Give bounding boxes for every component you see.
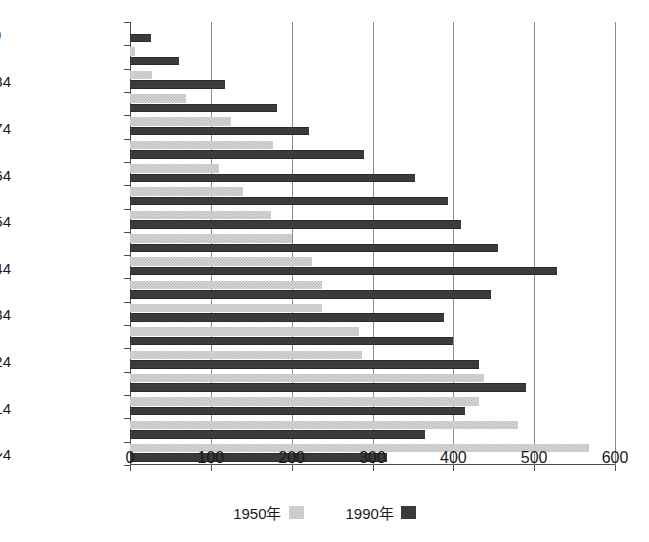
bar-1950-65〜69 [130,141,273,150]
y-axis-label-20〜24: 20〜24 [0,350,11,371]
x-tick-label-400: 400 [440,449,467,467]
bar-1950-10〜14 [130,397,479,406]
y-axis-label-70〜74: 70〜74 [0,116,11,137]
bar-1950-25〜29 [130,327,359,336]
y-tick-top [124,22,130,23]
bar-1950-35〜39 [130,281,322,290]
bar-1990-35〜39 [130,290,491,299]
bar-1950-15〜19 [130,374,484,383]
y-tick-20〜24 [124,372,130,373]
bar-1990-60〜64 [130,174,415,183]
bar-1950-45〜49 [130,234,292,243]
y-tick-65〜69 [124,162,130,163]
bar-1990-15〜19 [130,383,526,392]
y-tick-80〜84 [124,92,130,93]
y-axis-label-40〜44: 40〜44 [0,256,11,277]
y-tick-40〜44 [124,278,130,279]
y-tick-55〜59 [124,209,130,210]
y-tick-60〜64 [124,185,130,186]
x-tick-label-500: 500 [521,449,548,467]
y-tick-85〜89 [124,69,130,70]
bar-1950-85〜89 [130,47,135,56]
bar-1990-75〜79 [130,104,277,113]
bar-1990-45〜49 [130,244,498,253]
legend-item-1990年[interactable]: 1990年 [346,502,416,523]
bar-1990-80〜84 [130,80,225,89]
gridline-500 [534,22,535,465]
y-axis-label-60〜64: 60〜64 [0,163,11,184]
y-tick-10〜14 [124,418,130,419]
y-axis-label-30〜34: 30〜34 [0,303,11,324]
y-axis-label-50〜54: 50〜54 [0,210,11,231]
population-bar-chart: 0100200300400500600 0〜410〜1420〜2430〜3440… [0,0,649,542]
bar-1990-25〜29 [130,337,453,346]
y-tick-30〜34 [124,325,130,326]
legend-swatch-1950年 [289,506,304,519]
y-tick-70〜74 [124,139,130,140]
bar-1950-20〜24 [130,351,362,360]
bar-1950-70〜74 [130,117,231,126]
bar-1990-70〜74 [130,127,309,136]
bar-1990-50〜54 [130,220,461,229]
bar-1950-50〜54 [130,211,271,220]
bar-1950-80〜84 [130,71,152,80]
y-tick-35〜39 [124,302,130,303]
bar-1990-20〜24 [130,360,479,369]
y-tick-45〜49 [124,255,130,256]
x-tick-label-600: 600 [602,449,629,467]
bar-1990-85〜89 [130,57,179,66]
bar-1990-40〜44 [130,267,557,276]
y-tick-5〜9 [124,442,130,443]
bar-1990-65〜69 [130,150,364,159]
y-tick-75〜79 [124,115,130,116]
bar-1990-30〜34 [130,313,444,322]
bar-1990-10〜14 [130,407,465,416]
bar-1950-55〜59 [130,187,243,196]
x-tick-label-0: 0 [126,449,135,467]
bar-1990-5〜9 [130,430,425,439]
legend-item-1950年[interactable]: 1950年 [233,502,303,523]
y-axis-label-80〜84: 80〜84 [0,70,11,91]
y-tick-90〜94 [124,45,130,46]
legend-label: 1990年 [346,502,394,523]
bar-1950-30〜34 [130,304,322,313]
y-axis-label-0〜4: 0〜4 [0,443,11,464]
legend-label: 1950年 [233,502,281,523]
y-axis-label-10〜14: 10〜14 [0,396,11,417]
x-tick-label-100: 100 [197,449,224,467]
bar-1950-75〜79 [130,94,186,103]
y-tick-50〜54 [124,232,130,233]
bar-1990-0〜4 [130,453,387,462]
gridline-600 [615,22,616,465]
bar-1950-5〜9 [130,421,518,430]
y-tick-15〜19 [124,395,130,396]
x-tick-label-200: 200 [278,449,305,467]
y-tick-25〜29 [124,348,130,349]
bar-1990-90〜94 [130,34,151,43]
bar-1950-40〜44 [130,257,312,266]
chart-legend: 1950年1990年 [0,502,649,523]
plot-area [130,22,615,465]
bar-1950-60〜64 [130,164,219,173]
bar-1990-55〜59 [130,197,448,206]
legend-swatch-1990年 [401,506,416,519]
y-axis-label-90〜94: 90〜94（歳） [0,23,11,44]
x-tick-label-300: 300 [359,449,386,467]
